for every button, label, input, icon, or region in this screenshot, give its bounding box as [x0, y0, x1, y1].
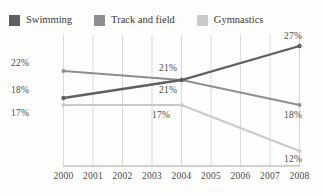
x-tick-2001: 2001 — [83, 172, 103, 182]
x-tick-2004: 2004 — [172, 172, 192, 182]
x-axis-labels: 2000 2001 2002 2003 2004 2005 2006 2007 … — [0, 172, 324, 188]
legend-label-swimming: Swimming — [26, 15, 72, 26]
value-label-track-and-field-2004: 21% — [159, 86, 177, 96]
legend-item-track-and-field[interactable]: Track and field — [94, 15, 175, 26]
line-chart: Swimming Track and field Gymnastics — [0, 0, 324, 196]
data-point-swimming-2008 — [297, 44, 301, 48]
legend-swatch-gymnastics — [197, 15, 208, 26]
data-point-swimming-2000 — [61, 96, 65, 100]
legend-item-gymnastics[interactable]: Gymnastics — [197, 15, 264, 26]
gridlines-vertical — [64, 35, 300, 166]
legend-label-gymnastics: Gymnastics — [214, 15, 264, 26]
legend-item-swimming[interactable]: Swimming — [9, 15, 72, 26]
x-tick-2000: 2000 — [54, 172, 74, 182]
legend-swatch-swimming — [9, 15, 20, 26]
data-point-gymnastics-2008 — [298, 149, 302, 153]
data-point-gymnastics-2004 — [180, 103, 184, 107]
cut-off-title-remnant — [0, 0, 324, 2]
legend-label-track-and-field: Track and field — [111, 15, 175, 26]
value-label-swimming-2008: 27% — [284, 32, 302, 42]
data-point-track-and-field-2008 — [298, 103, 302, 107]
value-label-track-and-field-2000: 22% — [11, 59, 29, 69]
legend-swatch-track-and-field — [94, 15, 105, 26]
value-label-gymnastics-2004: 17% — [152, 111, 170, 121]
x-tick-2006: 2006 — [231, 172, 251, 182]
x-tick-2002: 2002 — [113, 172, 133, 182]
value-label-gymnastics-2000: 17% — [11, 109, 29, 119]
data-point-track-and-field-2000 — [62, 69, 66, 73]
chart-legend: Swimming Track and field Gymnastics — [9, 11, 319, 29]
value-label-swimming-2004: 21% — [159, 64, 177, 74]
value-label-swimming-2000: 18% — [11, 86, 29, 96]
plot-area: 22% 18% 17% 21% 21% 17% 27% 18% 12% — [0, 33, 324, 168]
x-tick-2007: 2007 — [260, 172, 280, 182]
x-tick-2003: 2003 — [142, 172, 162, 182]
value-label-gymnastics-2008: 12% — [284, 155, 302, 165]
x-tick-2005: 2005 — [201, 172, 221, 182]
x-tick-2008: 2008 — [290, 172, 310, 182]
data-point-swimming-2004 — [179, 78, 183, 82]
plot-svg — [0, 33, 324, 168]
data-point-gymnastics-2000 — [62, 103, 66, 107]
value-label-track-and-field-2008: 18% — [284, 111, 302, 121]
